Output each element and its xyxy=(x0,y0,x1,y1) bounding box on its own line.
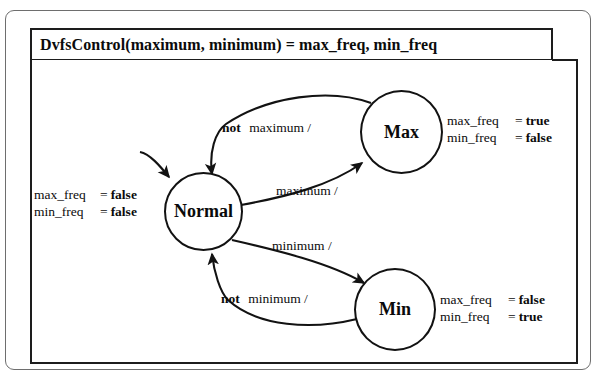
variable-value: false xyxy=(526,129,552,146)
annotation-normal-line1: max_freq = false xyxy=(34,186,137,203)
annotation-min-line1: max_freq = false xyxy=(440,291,545,308)
guard-keyword: not xyxy=(222,120,241,135)
guard-expression: maximum / xyxy=(249,120,311,135)
annotation-normal: max_freq = false min_freq = false xyxy=(34,186,137,220)
edge-label-max-to-normal: not maximum / xyxy=(222,120,311,136)
state-label-min: Min xyxy=(379,299,411,320)
variable-value: false xyxy=(519,291,545,308)
initial-arrow xyxy=(140,152,169,177)
annotation-normal-line2: min_freq = false xyxy=(34,203,137,220)
variable-value: true xyxy=(526,112,550,129)
variable-name: max_freq xyxy=(34,186,94,203)
guard-expression: minimum / xyxy=(272,238,332,253)
state-label-normal: Normal xyxy=(174,201,233,222)
variable-name: min_freq xyxy=(440,308,502,325)
state-node-normal[interactable]: Normal xyxy=(164,172,243,251)
equals-sign: = xyxy=(515,129,523,146)
equals-sign: = xyxy=(508,291,516,308)
annotation-max-line2: min_freq = false xyxy=(447,129,552,146)
annotation-min: max_freq = false min_freq = true xyxy=(440,291,545,325)
state-node-min[interactable]: Min xyxy=(354,268,436,351)
annotation-min-line2: min_freq = true xyxy=(440,308,545,325)
variable-name: min_freq xyxy=(34,203,94,220)
equals-sign: = xyxy=(100,186,108,203)
annotation-max: max_freq = true min_freq = false xyxy=(447,112,552,146)
edge-min-to-normal xyxy=(212,254,357,325)
variable-name: min_freq xyxy=(447,129,509,146)
edge-label-normal-to-min: minimum / xyxy=(272,238,332,254)
equals-sign: = xyxy=(515,112,523,129)
annotation-max-line1: max_freq = true xyxy=(447,112,552,129)
equals-sign: = xyxy=(508,308,516,325)
variable-value: true xyxy=(519,308,543,325)
guard-expression: maximum / xyxy=(276,183,338,198)
variable-value: false xyxy=(111,186,137,203)
equals-sign: = xyxy=(100,203,108,220)
edge-label-min-to-normal: not minimum / xyxy=(221,291,308,307)
state-machine-diagram: DvfsControl(maximum, minimum) = max_freq… xyxy=(0,0,604,378)
variable-name: max_freq xyxy=(447,112,509,129)
edge-label-normal-to-max: maximum / xyxy=(276,183,338,199)
guard-keyword: not xyxy=(221,291,240,306)
guard-expression: minimum / xyxy=(248,291,308,306)
variable-value: false xyxy=(111,203,137,220)
state-node-max[interactable]: Max xyxy=(360,90,443,174)
variable-name: max_freq xyxy=(440,291,502,308)
state-label-max: Max xyxy=(384,122,419,143)
